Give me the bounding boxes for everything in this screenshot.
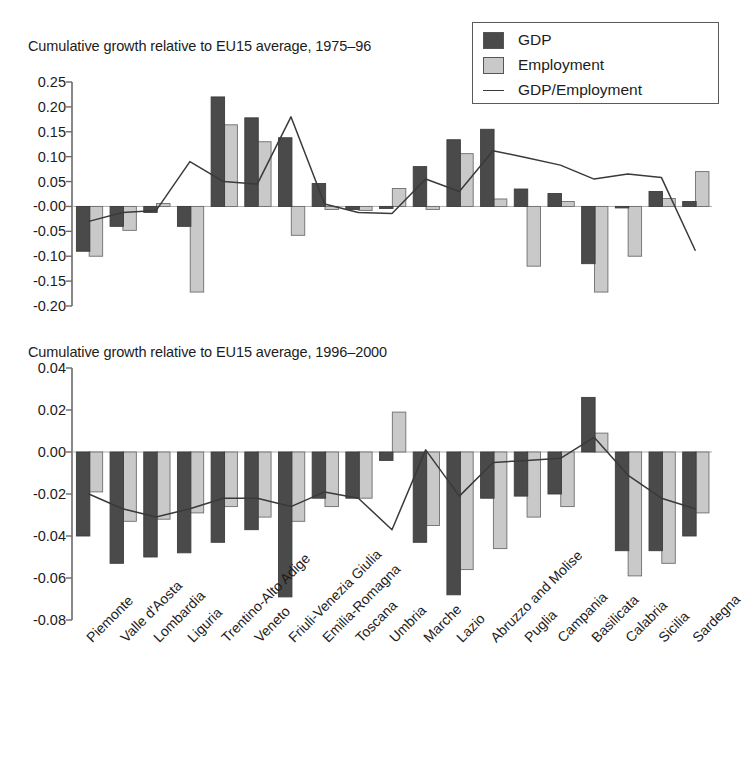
bar-gdp bbox=[413, 167, 426, 207]
bar-gdp bbox=[447, 140, 460, 207]
legend-label-employment: Employment bbox=[518, 56, 604, 74]
employment-swatch-icon bbox=[483, 57, 504, 74]
bar-gdp bbox=[683, 452, 696, 536]
y-tick-label: 0.20 bbox=[38, 99, 66, 115]
bar-gdp bbox=[649, 192, 662, 207]
y-tick-label: 0.10 bbox=[38, 149, 66, 165]
bar-gdp bbox=[177, 206, 190, 226]
y-tick-label: 0.15 bbox=[38, 124, 66, 140]
bar-employment bbox=[695, 452, 708, 513]
y-tick-label: -0.10 bbox=[33, 248, 66, 264]
gdp-swatch-icon bbox=[483, 32, 504, 49]
bar-gdp bbox=[649, 452, 662, 551]
bar-employment bbox=[426, 452, 439, 526]
bar-employment bbox=[123, 206, 136, 230]
plot-area-top bbox=[72, 82, 712, 306]
bar-employment bbox=[493, 199, 506, 206]
bar-employment bbox=[695, 172, 708, 207]
bar-employment bbox=[89, 452, 102, 492]
bar-employment bbox=[224, 125, 237, 207]
bar-employment bbox=[291, 206, 304, 235]
bar-employment bbox=[628, 206, 641, 256]
bar-gdp bbox=[346, 206, 359, 209]
y-tick-label: 0.02 bbox=[38, 402, 66, 418]
y-tick-label: -0.08 bbox=[33, 612, 66, 628]
bar-gdp bbox=[615, 452, 628, 551]
chart-legend: GDP Employment GDP/Employment bbox=[472, 22, 719, 104]
bar-employment bbox=[258, 142, 271, 207]
x-axis-labels: PiemonteValle d'AostaLombardiaLiguriaTre… bbox=[0, 630, 730, 781]
bar-employment bbox=[392, 412, 405, 452]
bar-gdp bbox=[380, 206, 393, 208]
y-tick-label: -0.05 bbox=[33, 223, 66, 239]
bar-employment bbox=[359, 452, 372, 498]
legend-item-ratio: GDP/Employment bbox=[483, 78, 718, 102]
bar-employment bbox=[426, 206, 439, 209]
bar-employment bbox=[527, 206, 540, 266]
ratio-line-icon bbox=[483, 82, 504, 99]
bar-employment bbox=[392, 189, 405, 207]
bar-gdp bbox=[76, 452, 89, 536]
bar-gdp bbox=[245, 452, 258, 530]
bar-gdp bbox=[380, 452, 393, 460]
bar-gdp bbox=[110, 206, 123, 226]
bar-employment bbox=[594, 433, 607, 452]
bar-gdp bbox=[312, 452, 325, 498]
bar-gdp bbox=[211, 452, 224, 542]
bar-employment bbox=[662, 452, 675, 563]
y-tick-label: -0.20 bbox=[33, 298, 66, 314]
bar-gdp bbox=[278, 138, 291, 207]
bar-employment bbox=[190, 452, 203, 513]
chart-title-bottom: Cumulative growth relative to EU15 avera… bbox=[28, 344, 387, 360]
bar-gdp bbox=[481, 452, 494, 498]
bar-gdp bbox=[346, 452, 359, 498]
bar-gdp bbox=[548, 194, 561, 207]
y-tick-label: -0.00 bbox=[33, 198, 66, 214]
bar-employment bbox=[89, 206, 102, 256]
y-tick-label: 0.05 bbox=[38, 174, 66, 190]
bar-employment bbox=[527, 452, 540, 517]
bar-gdp bbox=[683, 201, 696, 206]
bar-gdp bbox=[615, 206, 628, 207]
bar-gdp bbox=[582, 206, 595, 263]
bar-gdp bbox=[413, 452, 426, 542]
y-tick-label: -0.04 bbox=[33, 528, 66, 544]
chart-title-top: Cumulative growth relative to EU15 avera… bbox=[28, 38, 371, 54]
bar-employment bbox=[561, 201, 574, 206]
y-tick-label: 0.00 bbox=[38, 444, 66, 460]
bar-gdp bbox=[76, 206, 89, 251]
bar-employment bbox=[291, 452, 304, 521]
bar-employment bbox=[493, 452, 506, 549]
bar-employment bbox=[460, 154, 473, 207]
bar-employment bbox=[157, 452, 170, 519]
bar-employment bbox=[325, 452, 338, 507]
y-tick-label: -0.06 bbox=[33, 570, 66, 586]
bar-gdp bbox=[514, 189, 527, 206]
legend-label-ratio: GDP/Employment bbox=[518, 81, 642, 99]
bar-gdp bbox=[144, 452, 157, 557]
bar-employment bbox=[258, 452, 271, 517]
bar-employment bbox=[561, 452, 574, 507]
bar-employment bbox=[594, 206, 607, 292]
legend-item-employment: Employment bbox=[483, 53, 718, 77]
y-tick-label: 0.04 bbox=[38, 360, 66, 376]
bar-gdp bbox=[481, 129, 494, 206]
legend-item-gdp: GDP bbox=[483, 28, 718, 52]
y-tick-label: -0.02 bbox=[33, 486, 66, 502]
bar-employment bbox=[628, 452, 641, 576]
bar-employment bbox=[359, 206, 372, 210]
bar-gdp bbox=[177, 452, 190, 553]
y-tick-label: -0.15 bbox=[33, 273, 66, 289]
bar-gdp bbox=[514, 452, 527, 496]
bar-gdp bbox=[447, 452, 460, 595]
bar-gdp bbox=[245, 118, 258, 207]
chart-panel-bottom: Cumulative growth relative to EU15 avera… bbox=[0, 330, 730, 630]
bar-gdp bbox=[211, 97, 224, 207]
bar-employment bbox=[460, 452, 473, 570]
y-tick-label: 0.25 bbox=[38, 74, 66, 90]
bar-employment bbox=[190, 206, 203, 292]
legend-label-gdp: GDP bbox=[518, 31, 552, 49]
